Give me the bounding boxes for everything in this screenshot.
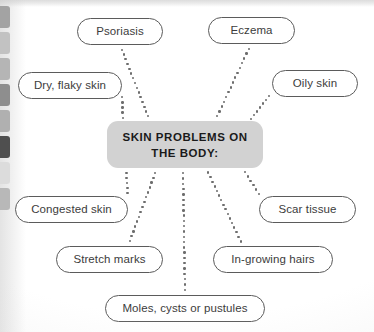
connector-dot [183, 251, 185, 253]
connector-dot [147, 115, 149, 117]
connector-dot [138, 216, 140, 218]
connector-dot [183, 220, 185, 222]
connector-dot [250, 118, 252, 120]
connector-dot [233, 226, 235, 228]
connector-dot [182, 193, 184, 195]
connector-dot [136, 220, 138, 222]
central-topic-line: SKIN PROBLEMS ON [122, 131, 247, 143]
connector-dot [126, 192, 128, 194]
connector-dot [134, 82, 136, 84]
connector-dot [207, 171, 209, 173]
connector-dot [122, 117, 124, 119]
connector-dot [241, 62, 243, 64]
node-oily[interactable]: Oily skin [272, 70, 358, 97]
connector-dot [224, 208, 226, 210]
connector-dot [262, 102, 264, 104]
connector-dot [240, 240, 242, 242]
node-label: In-growing hairs [231, 254, 314, 266]
connector-dot [125, 177, 127, 179]
connector-dot [132, 77, 134, 79]
connector-dot [237, 236, 239, 238]
connector-dot [124, 58, 126, 60]
node-stretch[interactable]: Stretch marks [56, 246, 163, 273]
connector-dot [229, 217, 231, 219]
connector-dot [138, 91, 140, 93]
connector-dot [183, 241, 185, 243]
connector-dot [218, 110, 220, 112]
node-label: Scar tissue [279, 204, 337, 216]
connector-dot [244, 171, 246, 173]
connector-dot [149, 186, 151, 188]
connector-dot [243, 57, 245, 59]
connector-dot [126, 182, 128, 184]
connector-dot [136, 87, 138, 89]
connector-dot [183, 225, 185, 227]
connector-dot [220, 199, 222, 201]
connector-dot [183, 236, 185, 238]
connector-dot [128, 68, 130, 70]
connector-dot [256, 110, 258, 112]
connector-dot [147, 191, 149, 193]
connector-dot [225, 96, 227, 98]
connector-dot [145, 110, 147, 112]
connector-dot [126, 187, 128, 189]
connector-dot [182, 172, 184, 174]
connector-dot [182, 199, 184, 201]
connector-dot [125, 172, 127, 174]
node-congested[interactable]: Congested skin [15, 196, 128, 223]
node-moles[interactable]: Moles, cysts or pustules [105, 295, 265, 322]
connector-dot [247, 175, 249, 177]
connector-dot [123, 53, 125, 55]
connector-dot [235, 231, 237, 233]
node-psoriasis[interactable]: Psoriasis [77, 18, 163, 45]
connector-dot [222, 204, 224, 206]
connector-dot [268, 95, 270, 97]
connector-dot [249, 180, 251, 182]
central-topic-box: SKIN PROBLEMS ONTHE BODY: [107, 121, 263, 168]
connector-dot [121, 111, 123, 113]
connector-dot [218, 194, 220, 196]
connector-dot [132, 230, 134, 232]
connector-dot [184, 278, 186, 280]
connector-dot [121, 96, 123, 98]
node-label: Moles, cysts or pustules [122, 303, 247, 315]
connector-dot [183, 273, 185, 275]
node-eczema[interactable]: Eczema [208, 17, 295, 44]
connector-dot [143, 106, 145, 108]
connector-dot [221, 105, 223, 107]
connector-dot [143, 201, 145, 203]
connector-dot [211, 181, 213, 183]
connector-dot [209, 176, 211, 178]
connector-dot [216, 115, 218, 117]
node-ingrowing[interactable]: In-growing hairs [213, 246, 333, 273]
connector-dot [130, 72, 132, 74]
central-topic-line: THE BODY: [151, 147, 218, 159]
node-scar[interactable]: Scar tissue [259, 196, 356, 223]
connector-dot [258, 193, 260, 195]
node-label: Stretch marks [73, 254, 145, 266]
connector-dot [121, 106, 123, 108]
connector-dot [130, 235, 132, 237]
connector-dot [139, 211, 141, 213]
connector-dot [248, 48, 250, 50]
connector-dot [227, 91, 229, 93]
connector-dot [182, 183, 184, 185]
connector-dot [183, 262, 185, 264]
connector-dot [231, 222, 233, 224]
connector-dot [121, 101, 123, 103]
connector-dot [216, 190, 218, 192]
connector-dot [141, 101, 143, 103]
node-label: Congested skin [31, 204, 112, 216]
connector-dot [252, 184, 254, 186]
connector-dot [259, 106, 261, 108]
node-label: Psoriasis [96, 26, 144, 38]
connector-dot [183, 257, 185, 259]
connector-dot [183, 214, 185, 216]
connector-dot [129, 240, 131, 242]
node-label: Oily skin [293, 78, 337, 90]
connector-dot [227, 213, 229, 215]
connector-dot [134, 225, 136, 227]
connector-dot [121, 49, 123, 51]
node-dry-flaky[interactable]: Dry, flaky skin [18, 72, 122, 99]
connector-dot [234, 76, 236, 78]
